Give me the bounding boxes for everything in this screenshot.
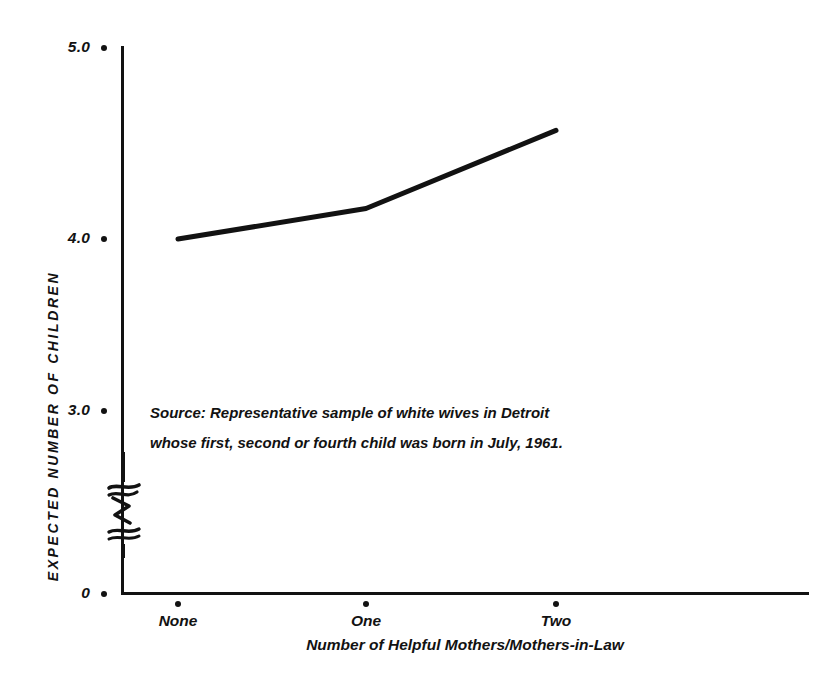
y-axis-break-icon (96, 452, 152, 558)
x-tick-dot-one (363, 601, 369, 607)
source-note-line-1: Source: Representative sample of white w… (150, 398, 563, 428)
y-tick-dot-3 (101, 408, 107, 414)
x-tick-label-none: None (159, 612, 198, 630)
y-tick-dot-5 (101, 45, 107, 51)
y-tick-label-3: 3.0 (68, 401, 90, 419)
chart-figure: 5.0 4.0 3.0 0 None One Two Source: Repre… (0, 0, 835, 681)
x-tick-label-one: One (351, 612, 381, 630)
source-note-line-2: whose first, second or fourth child was … (150, 428, 563, 458)
x-axis-title: Number of Helpful Mothers/Mothers-in-Law (121, 636, 809, 654)
source-note: Source: Representative sample of white w… (150, 398, 563, 458)
y-tick-label-5: 5.0 (68, 38, 90, 56)
x-tick-dot-two (553, 601, 559, 607)
y-tick-label-4: 4.0 (68, 229, 90, 247)
y-axis-title: EXPECTED NUMBER OF CHILDREN (45, 251, 61, 601)
y-tick-dot-4 (101, 236, 107, 242)
x-tick-label-two: Two (541, 612, 571, 630)
y-tick-dot-0 (101, 591, 107, 597)
x-tick-dot-none (175, 601, 181, 607)
data-series-line (0, 0, 835, 681)
x-axis-line (121, 592, 809, 595)
y-tick-label-0: 0 (81, 584, 90, 602)
